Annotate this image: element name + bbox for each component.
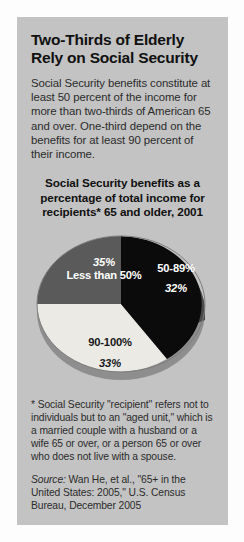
source-line: Source: Wan He, et al., "65+ in the Unit… — [31, 473, 214, 512]
chart-title: Social Security benefits as a percentage… — [33, 176, 212, 220]
page-title: Two-Thirds of Elderly Rely on Social Sec… — [31, 31, 214, 67]
footnote: * Social Security "recipient" refers not… — [31, 398, 214, 463]
pie-chart: 35% Less than 50% 50-89% 32% 90-100% 33% — [30, 226, 213, 391]
page: Two-Thirds of Elderly Rely on Social Sec… — [0, 0, 244, 542]
pie-chart-svg — [30, 226, 213, 391]
source-label: Source: — [31, 474, 66, 485]
infographic-card: Two-Thirds of Elderly Rely on Social Sec… — [17, 17, 228, 525]
intro-paragraph: Social Security benefits constitute at l… — [31, 76, 214, 161]
